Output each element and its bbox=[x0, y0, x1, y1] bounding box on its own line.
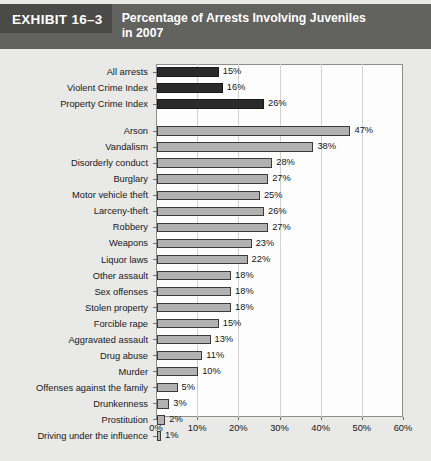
exhibit-title: Percentage of Arrests Involving Juvenile… bbox=[112, 4, 382, 40]
bar-value-label: 18% bbox=[235, 270, 254, 280]
axis-tick bbox=[153, 72, 157, 73]
x-axis-tick-mark bbox=[362, 417, 363, 420]
bar bbox=[157, 158, 272, 167]
axis-tick bbox=[153, 88, 157, 89]
x-axis-tick-label: 40% bbox=[311, 423, 330, 433]
category-label: Weapons bbox=[0, 235, 152, 251]
chart-row: Murder10% bbox=[0, 364, 431, 380]
chart-row: Robbery27% bbox=[0, 219, 431, 235]
bar-value-label: 11% bbox=[206, 350, 224, 360]
category-label: Larceny-theft bbox=[0, 203, 152, 219]
axis-tick bbox=[153, 179, 157, 180]
x-axis-tick-label: 50% bbox=[353, 423, 372, 433]
category-label: Forcible rape bbox=[0, 316, 152, 332]
bar-value-label: 27% bbox=[272, 222, 291, 232]
category-label: Drunkenness bbox=[0, 396, 152, 412]
axis-tick bbox=[153, 131, 157, 132]
chart-row: Burglary27% bbox=[0, 171, 431, 187]
category-label: Stolen property bbox=[0, 300, 152, 316]
bar bbox=[157, 191, 260, 200]
chart-row: Other assault18% bbox=[0, 268, 431, 284]
bar-value-label: 26% bbox=[268, 98, 287, 108]
axis-tick bbox=[153, 227, 157, 228]
bar bbox=[157, 271, 231, 280]
x-axis-tick-mark bbox=[280, 417, 281, 420]
axis-tick bbox=[153, 307, 157, 308]
bar-value-label: 22% bbox=[252, 254, 271, 264]
category-label: Violent Crime Index bbox=[0, 80, 152, 96]
category-label: Sex offenses bbox=[0, 284, 152, 300]
bar-value-label: 15% bbox=[223, 318, 242, 328]
chart-row: Drug abuse11% bbox=[0, 348, 431, 364]
bar-value-label: 47% bbox=[354, 125, 373, 135]
bar-value-label: 27% bbox=[272, 173, 291, 183]
chart-row: Weapons23% bbox=[0, 235, 431, 251]
bar bbox=[157, 335, 211, 344]
bar bbox=[157, 351, 202, 360]
bar bbox=[157, 383, 178, 392]
category-label: Prostitution bbox=[0, 412, 152, 428]
bar-value-label: 3% bbox=[173, 398, 186, 408]
category-label: Liquor laws bbox=[0, 252, 152, 268]
axis-tick bbox=[153, 259, 157, 260]
bar bbox=[157, 83, 223, 92]
chart-row: Violent Crime Index16% bbox=[0, 80, 431, 96]
category-label: Driving under the influence bbox=[0, 428, 152, 444]
x-axis-tick-mark bbox=[321, 417, 322, 420]
x-axis-tick-mark bbox=[156, 417, 157, 420]
category-label: Other assault bbox=[0, 268, 152, 284]
category-label: Drug abuse bbox=[0, 348, 152, 364]
bar-value-label: 28% bbox=[276, 157, 295, 167]
chart-row: All arrests15% bbox=[0, 64, 431, 80]
x-axis-tick-mark bbox=[238, 417, 239, 420]
chart-rows: All arrests15%Violent Crime Index16%Prop… bbox=[0, 64, 431, 417]
bar-value-label: 15% bbox=[223, 66, 242, 76]
chart-row: Stolen property18% bbox=[0, 300, 431, 316]
chart-row: Arson47% bbox=[0, 123, 431, 139]
bar bbox=[157, 223, 268, 232]
chart-row: Vandalism38% bbox=[0, 139, 431, 155]
bar bbox=[157, 319, 219, 328]
x-axis-tick-label: 20% bbox=[229, 423, 248, 433]
chart-row: Larceny-theft26% bbox=[0, 203, 431, 219]
bar bbox=[157, 255, 248, 264]
bar-value-label: 38% bbox=[317, 141, 336, 151]
bar bbox=[157, 287, 231, 296]
bar-value-label: 23% bbox=[256, 238, 275, 248]
group-spacer bbox=[0, 112, 431, 123]
chart-row: Aggravated assault13% bbox=[0, 332, 431, 348]
x-axis: 0%10%20%30%40%50%60% bbox=[156, 417, 403, 447]
exhibit-header-band: EXHIBIT 16–3 Percentage of Arrests Invol… bbox=[0, 4, 431, 49]
category-label: Property Crime Index bbox=[0, 96, 152, 112]
x-axis-tick-mark bbox=[197, 417, 198, 420]
axis-tick bbox=[153, 403, 157, 404]
x-axis-tick-label: 30% bbox=[270, 423, 289, 433]
exhibit-number-label: EXHIBIT 16–3 bbox=[0, 4, 112, 33]
x-axis-tick-mark bbox=[403, 417, 404, 420]
chart-row: Offenses against the family5% bbox=[0, 380, 431, 396]
chart-row: Motor vehicle theft25% bbox=[0, 187, 431, 203]
category-label: Robbery bbox=[0, 219, 152, 235]
category-label: Arson bbox=[0, 123, 152, 139]
category-label: Motor vehicle theft bbox=[0, 187, 152, 203]
axis-tick bbox=[153, 104, 157, 105]
axis-tick bbox=[153, 339, 157, 340]
bar-value-label: 13% bbox=[215, 334, 234, 344]
category-label: Murder bbox=[0, 364, 152, 380]
category-label: Burglary bbox=[0, 171, 152, 187]
x-axis-tick-label: 0% bbox=[149, 423, 162, 433]
axis-tick bbox=[153, 211, 157, 212]
chart-row: Disorderly conduct28% bbox=[0, 155, 431, 171]
axis-tick bbox=[153, 147, 157, 148]
axis-tick bbox=[153, 163, 157, 164]
category-label: Offenses against the family bbox=[0, 380, 152, 396]
bar bbox=[157, 99, 264, 108]
chart-row: Drunkenness3% bbox=[0, 396, 431, 412]
bar bbox=[157, 126, 350, 135]
bar bbox=[157, 239, 252, 248]
bar-value-label: 25% bbox=[264, 190, 283, 200]
category-label: Aggravated assault bbox=[0, 332, 152, 348]
bar bbox=[157, 303, 231, 312]
bar bbox=[157, 399, 169, 408]
chart-row: Liquor laws22% bbox=[0, 252, 431, 268]
